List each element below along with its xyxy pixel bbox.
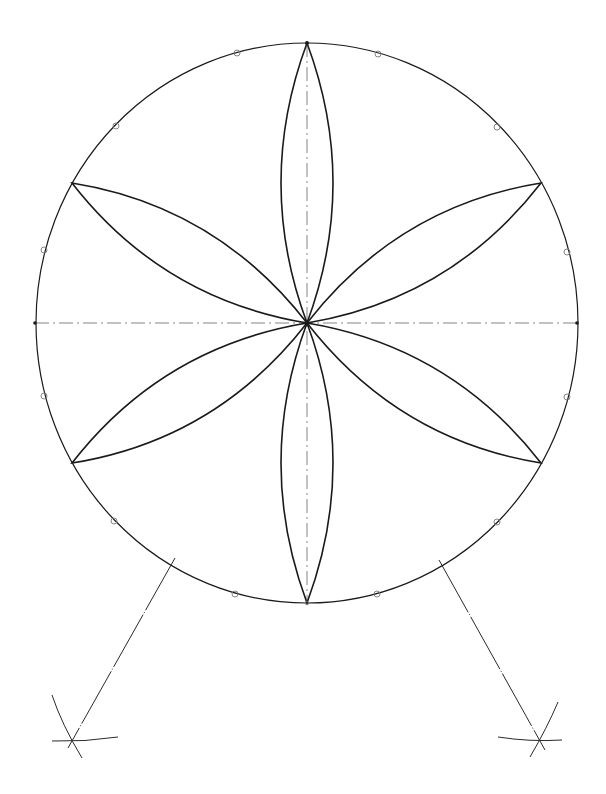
division-marker	[494, 124, 500, 130]
petal-lower-left	[72, 323, 307, 463]
construction-right	[439, 560, 562, 757]
division-marker	[41, 247, 47, 253]
division-marker	[564, 394, 570, 400]
petal-upper-right	[307, 183, 541, 323]
construction-arc-left-1	[52, 695, 82, 758]
construction-arc-left-2	[52, 737, 118, 741]
construction-line-right	[439, 560, 545, 750]
drawing-canvas	[0, 0, 606, 794]
construction-line-left	[68, 558, 175, 748]
point-top	[305, 41, 309, 45]
petal-lower-right	[307, 323, 541, 463]
rosette-diagram	[0, 0, 606, 794]
construction-left	[52, 558, 175, 758]
construction-arc-right-2	[498, 737, 562, 741]
point-right	[575, 321, 579, 325]
point-left	[33, 321, 37, 325]
point-center	[305, 321, 309, 325]
division-marker	[375, 51, 381, 57]
petal-upper-left	[72, 183, 307, 323]
division-marker	[41, 393, 47, 399]
